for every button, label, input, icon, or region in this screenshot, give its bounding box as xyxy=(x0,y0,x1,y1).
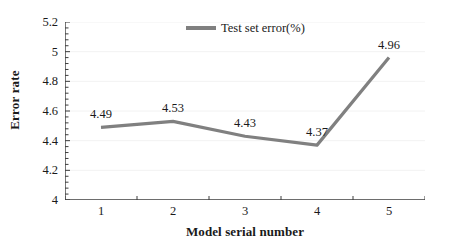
y-tick-label: 5 xyxy=(26,45,58,58)
series-line-test-set-error xyxy=(101,58,389,146)
y-tick-label: 4.2 xyxy=(26,164,58,177)
plot-area: 4.494.534.434.374.96 xyxy=(65,22,425,200)
x-tick-label: 1 xyxy=(81,205,121,218)
data-point-label: 4.37 xyxy=(306,126,328,139)
legend-entry-label: Test set error(%) xyxy=(221,22,305,35)
y-tick-label: 5.2 xyxy=(26,16,58,29)
plot-svg xyxy=(65,22,425,200)
y-tick-label: 4.6 xyxy=(26,105,58,118)
x-axis-title-text: Model serial number xyxy=(186,224,304,239)
line-chart: Error rate 44.24.44.64.855.2 12345 Model… xyxy=(0,0,451,247)
chart-legend: Test set error(%) xyxy=(186,22,305,35)
data-point-label: 4.43 xyxy=(234,117,256,130)
data-point-label: 4.49 xyxy=(90,108,112,121)
y-axis-tick-labels: 44.24.44.64.855.2 xyxy=(20,0,58,247)
x-tick-label: 2 xyxy=(153,205,193,218)
x-axis-title: Model serial number xyxy=(65,224,425,240)
x-tick-label: 5 xyxy=(369,205,409,218)
y-tick-label: 4.4 xyxy=(26,134,58,147)
x-tick-label: 4 xyxy=(297,205,337,218)
gridlines xyxy=(65,22,425,170)
x-tick-label: 3 xyxy=(225,205,265,218)
data-point-label: 4.96 xyxy=(378,38,400,51)
y-tick-label: 4 xyxy=(26,194,58,207)
y-axis-major-ticks xyxy=(65,22,70,200)
y-tick-label: 4.8 xyxy=(26,75,58,88)
legend-line-swatch xyxy=(186,26,216,30)
data-point-label: 4.53 xyxy=(162,102,184,115)
